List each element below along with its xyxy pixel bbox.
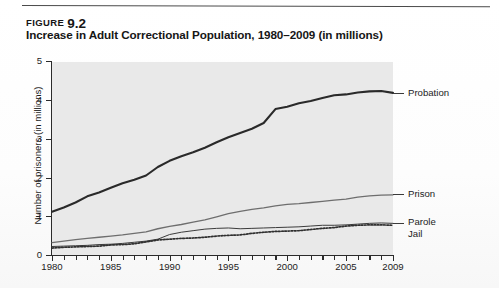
series-lines xyxy=(0,0,499,288)
leader-probation xyxy=(393,93,404,94)
series-line-probation xyxy=(52,91,393,212)
series-label-parole: Parole xyxy=(408,216,436,227)
leader-parole xyxy=(393,223,404,224)
line-chart: Number of prisoners (in millions) 5 4 3 … xyxy=(0,0,499,288)
series-label-probation: Probation xyxy=(408,87,449,98)
series-label-jail: Jail xyxy=(408,228,422,239)
leader-prison xyxy=(393,194,404,195)
series-label-prison: Prison xyxy=(408,188,435,199)
